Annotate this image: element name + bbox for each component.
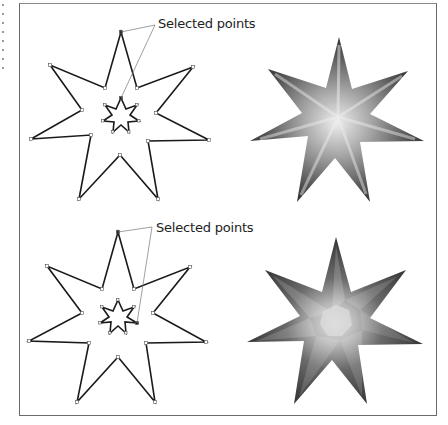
- star-outline-bottom: [28, 227, 208, 404]
- leader-line-bottom: [118, 227, 152, 323]
- callout-selected-points-top: Selected points: [158, 16, 255, 31]
- star-outline-top: [30, 25, 211, 201]
- star-gradient-bottom: [247, 237, 423, 404]
- star-gradient-top: [250, 37, 424, 202]
- figure-canvas: [0, 0, 448, 425]
- callout-selected-points-bottom: Selected points: [156, 220, 253, 235]
